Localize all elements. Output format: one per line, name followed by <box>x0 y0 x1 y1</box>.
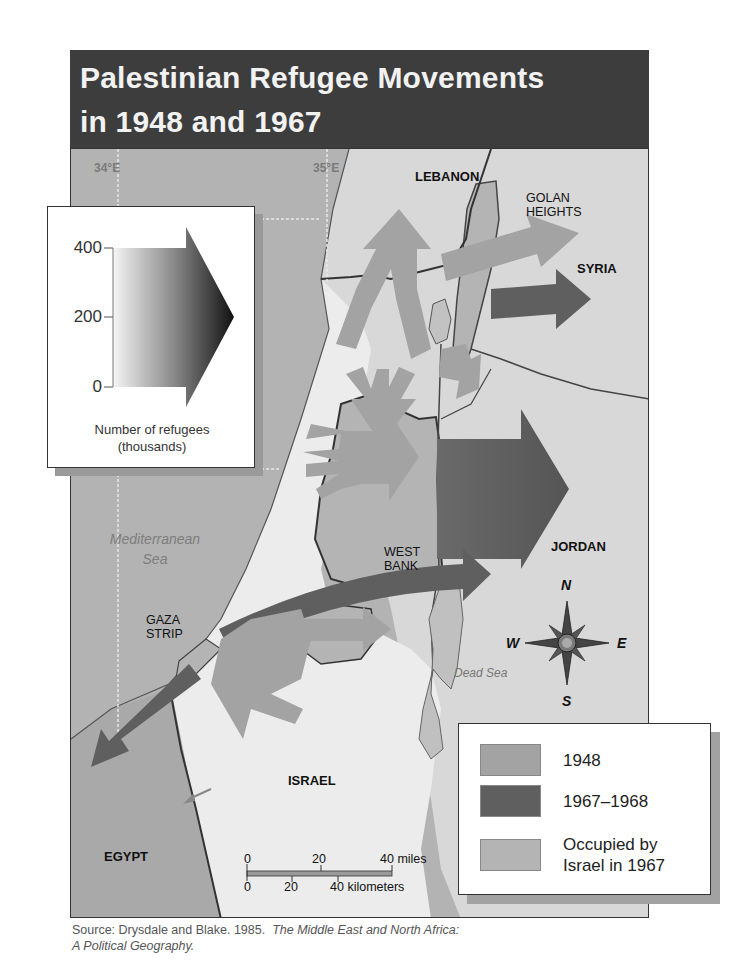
size-legend-caption: Number of refugees (thousands) <box>48 421 256 455</box>
grid-label-35e: 35°E <box>313 161 339 175</box>
legend-item-occupied-1967: Occupied by Israel in 1967 <box>480 834 665 876</box>
color-legend: 1948 1967–1968 Occupied by Israel in 196… <box>458 723 711 895</box>
map-title-line-2: in 1948 and 1967 <box>80 100 649 144</box>
map-title-bar: Palestinian Refugee Movements in 1948 an… <box>70 50 649 148</box>
label-west-bank-1: WEST <box>384 545 420 559</box>
label-golan-heights-1: GOLAN <box>526 191 570 205</box>
label-gaza-strip-2: STRIP <box>146 627 183 641</box>
source-caption: Source: Drysdale and Blake. 1985. The Mi… <box>72 922 459 954</box>
label-west-bank-2: BANK <box>384 559 418 573</box>
label-gaza-strip-1: GAZA <box>146 613 180 627</box>
compass-east-label: E <box>617 635 626 651</box>
label-israel: ISRAEL <box>288 773 336 788</box>
label-dead-sea: Dead Sea <box>454 666 507 680</box>
label-mediterranean-sea: Mediterranean Sea <box>95 529 215 569</box>
grid-label-34e: 34°E <box>94 161 120 175</box>
compass-west-label: W <box>506 635 519 651</box>
map-title-line-1: Palestinian Refugee Movements <box>80 56 649 100</box>
compass-north-label: N <box>561 577 571 593</box>
scale-bar-labels: 0 20 40 miles 0 20 40 kilometers <box>244 852 454 897</box>
size-tick-200: 200 <box>62 307 102 327</box>
refugee-size-legend: 400 200 0 Number of refugees (thousands) <box>47 206 255 468</box>
size-tick-400: 400 <box>62 238 102 258</box>
label-jordan: JORDAN <box>551 539 606 554</box>
label-egypt: EGYPT <box>104 849 148 864</box>
compass-south-label: S <box>562 693 571 709</box>
label-lebanon: LEBANON <box>415 169 479 184</box>
legend-swatch-1948 <box>480 744 541 776</box>
legend-item-1967-1968: 1967–1968 <box>480 785 648 817</box>
legend-swatch-occupied-1967 <box>480 839 541 871</box>
label-golan-heights-2: HEIGHTS <box>526 205 582 219</box>
size-tick-0: 0 <box>62 377 102 397</box>
label-syria: SYRIA <box>577 261 617 276</box>
legend-item-1948: 1948 <box>480 744 601 776</box>
legend-swatch-1967-1968 <box>480 785 541 817</box>
